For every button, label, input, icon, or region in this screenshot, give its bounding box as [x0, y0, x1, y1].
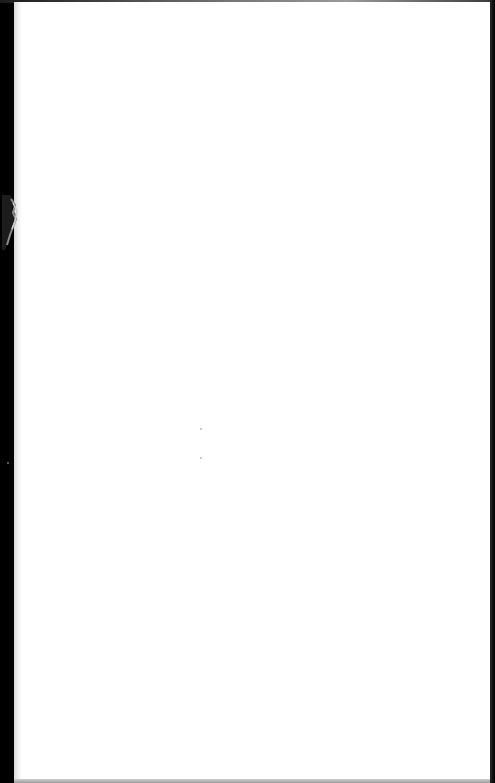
blank-page: [14, 2, 490, 780]
scan-speck: [200, 457, 202, 459]
scan-speck: [200, 428, 202, 430]
torn-edge-mark: [2, 195, 24, 250]
scan-bottom-edge: [14, 779, 490, 783]
page-gutter-shadow: [14, 2, 22, 780]
scan-right-edge: [490, 0, 495, 783]
scan-speck: [7, 462, 9, 464]
scan-binding-edge: [0, 0, 14, 783]
